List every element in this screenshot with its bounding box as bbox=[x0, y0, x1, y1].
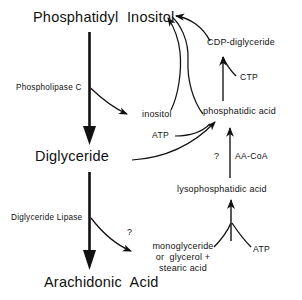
cofactor-atp-upper: ATP bbox=[152, 131, 169, 140]
arrow-atp-into-phosphatidic-acid bbox=[175, 124, 210, 136]
arrow-to-monoglyceride bbox=[91, 218, 131, 251]
node-arachidonic-acid: Arachidonic Acid bbox=[44, 275, 159, 291]
arrow-ctp-into-cdp-diglyceride bbox=[223, 57, 236, 76]
cofactor-atp-lower: ATP bbox=[253, 245, 270, 254]
enzyme-diglyceride-lipase: Diglyceride Lipase bbox=[11, 214, 82, 223]
cofactor-aa-coa: AA-CoA bbox=[235, 152, 268, 161]
arrow-to-inositol bbox=[91, 88, 128, 114]
cofactor-ctp: CTP bbox=[240, 73, 258, 82]
pathway-diagram: Phosphatidyl Inositol CDP-diglyceride CT… bbox=[0, 0, 302, 300]
arrow-inositol-recycle-curve bbox=[168, 18, 181, 110]
metabolite-phosphatidic-acid: phosphatidic acid bbox=[203, 107, 276, 117]
node-diglyceride: Diglyceride bbox=[35, 149, 109, 165]
arrow-diglyceride-to-phosphatidic-acid bbox=[132, 122, 215, 160]
enzyme-phospholipase-c: Phospholipase C bbox=[16, 84, 82, 93]
arrow-into-lysophosphatidic-acid bbox=[214, 200, 251, 247]
node-phosphatidyl-inositol: Phosphatidyl Inositol bbox=[33, 10, 174, 26]
unknown-step-middle: ? bbox=[214, 152, 219, 162]
arrow-pi-to-diglyceride bbox=[83, 32, 96, 145]
metabolite-cdp-diglyceride: CDP-diglyceride bbox=[207, 38, 275, 48]
arrow-recycle-to-pi bbox=[172, 17, 203, 114]
metabolite-monoglyceride-line2: or glycerol + bbox=[140, 253, 226, 263]
metabolite-monoglyceride-line3: stearic acid bbox=[140, 264, 226, 274]
metabolite-lysophosphatidic-acid: lysophosphatidic acid bbox=[177, 185, 267, 195]
metabolite-monoglyceride-line1: monoglyceride bbox=[140, 242, 226, 252]
metabolite-inositol: inositol bbox=[142, 110, 172, 120]
unknown-step-lower: ? bbox=[127, 228, 132, 238]
